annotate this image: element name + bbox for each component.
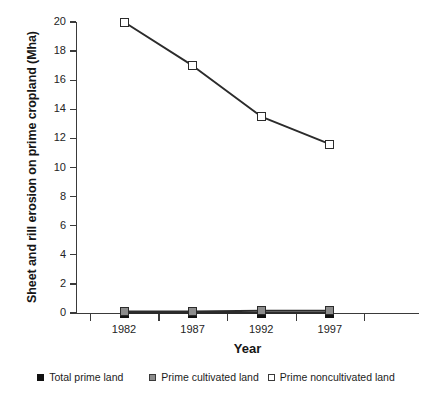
legend-label: Total prime land [49, 371, 123, 383]
chart-figure: Sheet and rill erosion on prime cropland… [0, 0, 432, 400]
legend-item-prime-cultivated-land[interactable]: Prime cultivated land [149, 371, 258, 383]
legend-item-prime-noncultivated-land[interactable]: Prime noncultivated land [268, 371, 395, 383]
series-line [124, 22, 330, 144]
series-line [124, 311, 330, 312]
data-point-marker [188, 307, 197, 316]
data-point-marker [188, 61, 197, 70]
data-point-marker [325, 140, 334, 149]
data-point-marker [120, 18, 129, 27]
legend-item-total-prime-land[interactable]: Total prime land [37, 371, 123, 383]
series-lines-layer [0, 0, 432, 400]
chart-legend: Total prime land Prime cultivated land P… [0, 371, 432, 383]
legend-label: Prime noncultivated land [280, 371, 395, 383]
data-point-marker [257, 112, 266, 121]
x-axis-title: Year [76, 341, 419, 356]
data-point-marker [120, 307, 129, 316]
data-point-marker [257, 306, 266, 315]
gray-square-icon [149, 374, 156, 381]
white-square-icon [268, 374, 275, 381]
legend-label: Prime cultivated land [161, 371, 258, 383]
black-square-icon [37, 374, 44, 381]
data-point-marker [325, 306, 334, 315]
